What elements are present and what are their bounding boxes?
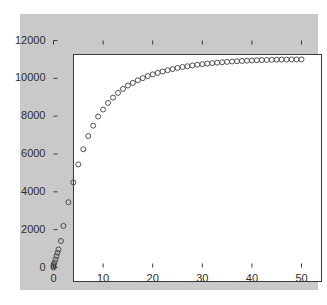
y-tick-label: 0	[0, 262, 46, 273]
x-tick-label: 30	[182, 273, 222, 284]
y-tick-label: 8000	[0, 110, 46, 121]
x-tick-label: 50	[282, 273, 322, 284]
y-tick-label: 2000	[0, 224, 46, 235]
y-tick-label: 6000	[0, 148, 46, 159]
x-tick-label: 0	[34, 273, 74, 284]
plot-area	[73, 54, 322, 282]
y-tick-label: 4000	[0, 186, 46, 197]
x-tick-label: 20	[133, 273, 173, 284]
x-tick-label: 10	[83, 273, 123, 284]
y-tick-label: 10000	[0, 72, 46, 83]
figure-background	[20, 14, 318, 290]
x-tick-label: 40	[232, 273, 272, 284]
y-tick-label: 12000	[0, 35, 46, 46]
